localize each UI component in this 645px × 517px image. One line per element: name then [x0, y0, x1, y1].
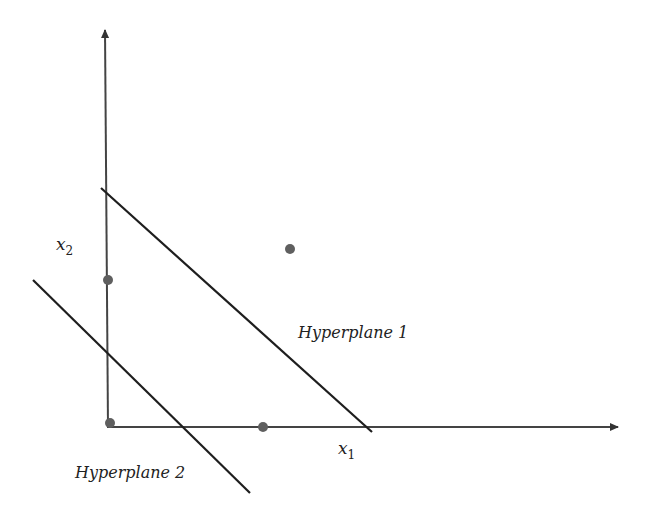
x1-axis-label: x1 — [338, 438, 355, 462]
x2-axis-label: x2 — [56, 234, 73, 258]
hyperplane-2-line — [33, 280, 250, 493]
hyperplane-1-label: Hyperplane 1 — [297, 323, 408, 342]
x2-axis — [105, 30, 108, 428]
data-point — [285, 244, 295, 254]
data-point — [103, 275, 113, 285]
hyperplane-diagram: x2 x1 Hyperplane 1 Hyperplane 2 — [0, 0, 645, 517]
data-point — [105, 418, 115, 428]
hyperplane-2-label: Hyperplane 2 — [74, 463, 185, 482]
data-point — [258, 422, 268, 432]
hyperplane-1-line — [101, 188, 372, 432]
